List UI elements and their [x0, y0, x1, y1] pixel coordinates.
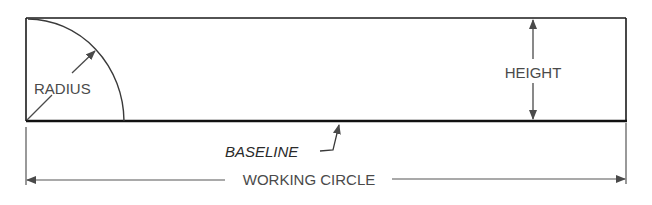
radius-arrow-lower — [27, 95, 52, 120]
radius-label: RADIUS — [34, 80, 91, 97]
working-circle-label: WORKING CIRCLE — [243, 171, 376, 188]
radius-arrow-upper — [72, 51, 95, 73]
baseline-leader — [320, 125, 339, 151]
height-label: HEIGHT — [505, 64, 562, 81]
working-circle-diagram: RADIUS HEIGHT BASELINE WORKING CIRCLE — [0, 0, 652, 205]
baseline-label: BASELINE — [225, 143, 299, 160]
